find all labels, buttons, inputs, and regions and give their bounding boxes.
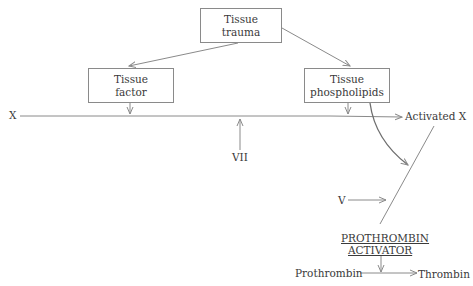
- node-tissue-phospholipids: Tissue phospholipids: [304, 68, 390, 103]
- arrow-phospholipids-curve: [370, 103, 408, 165]
- tissue-phospholipids-line2: phospholipids: [310, 86, 384, 99]
- arrow-trauma-to-factor: [129, 43, 238, 66]
- label-x: X: [9, 109, 16, 122]
- node-tissue-factor: Tissue factor: [88, 68, 174, 103]
- node-tissue-trauma: Tissue trauma: [200, 8, 282, 43]
- label-prothrombin-activator-line2: ACTIVATOR: [348, 244, 412, 257]
- arrow-trauma-to-phospholipids: [282, 28, 350, 66]
- activated-x-slant-line: [380, 126, 434, 224]
- label-activated-x: Activated X: [405, 110, 466, 123]
- coagulation-diagram: Tissue trauma Tissue factor Tissue phosp…: [0, 0, 473, 286]
- tissue-trauma-line2: trauma: [222, 26, 260, 39]
- label-thrombin: Thrombin: [418, 268, 470, 281]
- label-v: V: [338, 194, 346, 207]
- arrow-to-activated-x: [330, 116, 402, 117]
- tissue-phospholipids-line1: Tissue: [330, 73, 364, 86]
- tissue-factor-line1: Tissue: [114, 73, 148, 86]
- label-prothrombin: Prothrombin: [295, 267, 363, 280]
- tissue-factor-line2: factor: [115, 86, 147, 99]
- label-vii: VII: [232, 151, 248, 164]
- tissue-trauma-line1: Tissue: [224, 13, 258, 26]
